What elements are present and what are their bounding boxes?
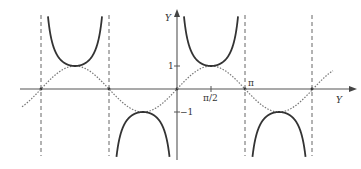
tick-label-neg1: −1 <box>180 107 193 117</box>
csc-sin-graph: Y Y 1 −1 π/2 π <box>0 0 361 169</box>
tick-label-1: 1 <box>168 61 174 71</box>
tick-label-pi: π <box>248 78 254 88</box>
cosecant-branch <box>184 16 238 66</box>
x-axis-arrow-icon <box>349 86 357 92</box>
tick-label-half-pi: π/2 <box>203 93 218 103</box>
x-axis-label: Y <box>336 95 343 105</box>
y-axis-label: Y <box>165 13 172 23</box>
cosecant-branch <box>48 16 102 66</box>
y-axis-arrow-icon <box>174 9 180 17</box>
cosecant-branch <box>252 112 305 157</box>
cosecant-branch <box>116 112 169 157</box>
